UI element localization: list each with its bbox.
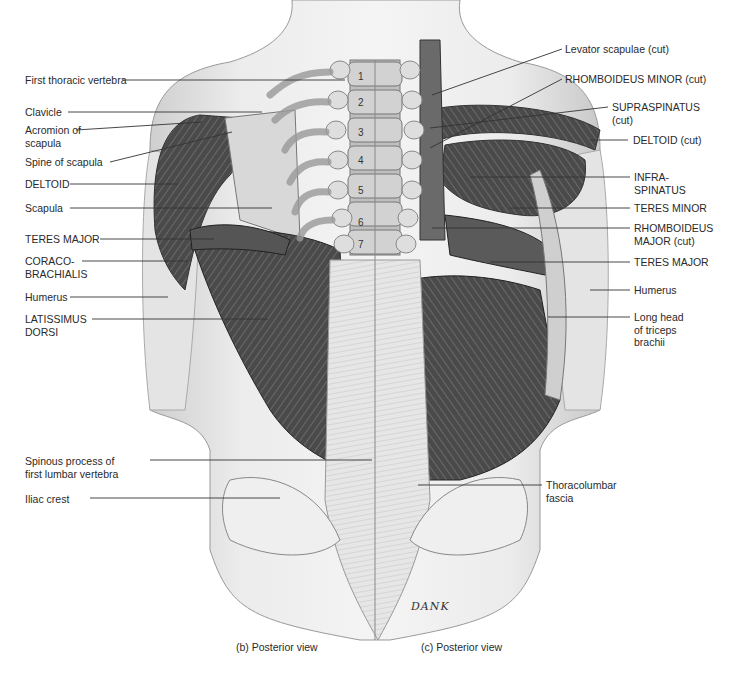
vertebra-number-7: 7 — [358, 239, 364, 250]
label-spinous-process-first-lumbar: Spinous process of first lumbar vertebra — [25, 455, 118, 480]
label-spine-of-scapula: Spine of scapula — [25, 156, 103, 169]
caption-b-posterior-view: (b) Posterior view — [236, 641, 318, 653]
label-first-thoracic-vertebra: First thoracic vertebra — [25, 74, 127, 87]
vertebra-numbers: 1 2 3 4 5 6 7 — [358, 71, 364, 250]
label-levator-scapulae-cut: Levator scapulae (cut) — [565, 43, 669, 56]
label-long-head-triceps-brachii: Long head of triceps brachii — [634, 311, 684, 349]
label-teres-major-left: TERES MAJOR — [25, 233, 100, 246]
label-teres-minor: TERES MINOR — [634, 202, 707, 215]
label-supraspinatus-cut: SUPRASPINATUS (cut) — [612, 101, 700, 126]
label-deltoid: DELTOID — [25, 178, 70, 191]
label-thoracolumbar-fascia: Thoracolumbar fascia — [546, 479, 617, 504]
caption-c-posterior-view: (c) Posterior view — [421, 641, 502, 653]
label-teres-major-right: TERES MAJOR — [634, 256, 709, 269]
vertebra-number-4: 4 — [358, 155, 364, 166]
label-rhomboideus-minor-cut: RHOMBOIDEUS MINOR (cut) — [565, 73, 706, 86]
label-rhomboideus-major-cut: RHOMBOIDEUS MAJOR (cut) — [634, 222, 713, 247]
vertebra-number-5: 5 — [358, 185, 364, 196]
vertebra-number-3: 3 — [358, 127, 364, 138]
label-coraco-brachialis: CORACO- BRACHIALIS — [25, 255, 87, 280]
artist-signature: DANK — [411, 600, 450, 613]
label-acromion-of-scapula: Acromion of scapula — [25, 124, 81, 149]
label-humerus-left: Humerus — [25, 291, 68, 304]
label-iliac-crest: Iliac crest — [25, 493, 69, 506]
vertebra-number-6: 6 — [358, 217, 364, 228]
label-scapula: Scapula — [25, 202, 63, 215]
right-rhomboid-levator — [420, 40, 445, 240]
vertebra-number-1: 1 — [358, 71, 364, 82]
label-clavicle: Clavicle — [25, 106, 62, 119]
vertebra-number-2: 2 — [358, 97, 364, 108]
label-humerus-right: Humerus — [634, 284, 677, 297]
label-deltoid-cut: DELTOID (cut) — [633, 134, 701, 147]
label-latissimus-dorsi: LATISSIMUS DORSI — [25, 313, 87, 338]
label-infraspinatus: INFRA- SPINATUS — [634, 171, 686, 196]
